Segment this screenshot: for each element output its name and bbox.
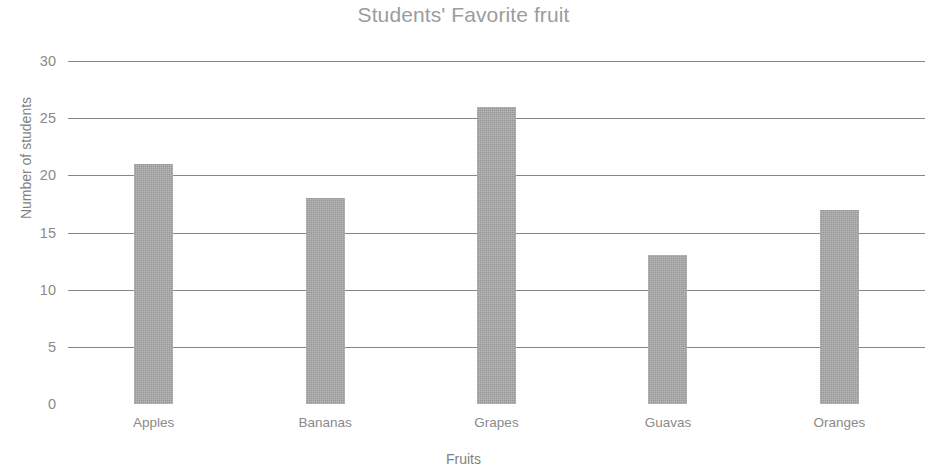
y-axis-tick-label: 0 <box>10 397 56 411</box>
x-axis-tick-label: Oranges <box>769 414 909 432</box>
gridline <box>68 61 925 62</box>
bar-apples <box>134 164 173 404</box>
y-axis-tick-label: 30 <box>10 54 56 68</box>
bar-bananas <box>306 198 345 404</box>
y-axis-tick-label: 10 <box>10 283 56 297</box>
x-axis-tick-label: Guavas <box>598 414 738 432</box>
x-axis-tick-label: Grapes <box>427 414 567 432</box>
plot-area <box>68 61 925 404</box>
y-axis-tick-label: 20 <box>10 168 56 182</box>
y-axis-tick-label: 5 <box>10 340 56 354</box>
y-axis-tick-labels: 051015202530 <box>0 61 56 404</box>
bar-chart: Students' Favorite fruit Number of stude… <box>0 0 927 474</box>
y-axis-tick-label: 25 <box>10 111 56 125</box>
x-axis-tick-label: Apples <box>84 414 224 432</box>
bar-guavas <box>648 255 687 404</box>
chart-title: Students' Favorite fruit <box>0 1 927 29</box>
y-axis-tick-label: 15 <box>10 226 56 240</box>
x-axis-tick-label: Bananas <box>255 414 395 432</box>
x-axis-title: Fruits <box>0 450 927 468</box>
bar-oranges <box>820 210 859 404</box>
bar-grapes <box>477 107 516 404</box>
